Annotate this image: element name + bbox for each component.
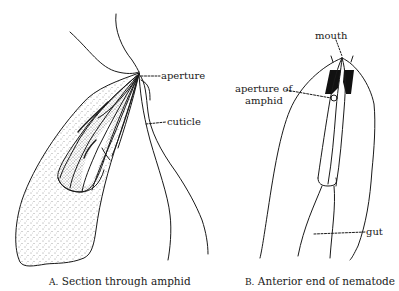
caption-b-letter: B.: [245, 277, 254, 287]
cuticle-outer-wall: [139, 74, 208, 254]
gut-leader: [314, 232, 365, 234]
mouth-leader: [336, 40, 342, 56]
gut-wall-left: [298, 186, 322, 256]
label-aperture-of-amphid-line1: aperture of: [235, 83, 292, 94]
caption-a-text: Section through amphid: [62, 275, 191, 287]
figure-a-section-through-amphid: [16, 14, 208, 266]
amphid-aperture-icon: [331, 95, 337, 101]
label-mouth: mouth: [315, 30, 347, 41]
label-cuticle: cuticle: [167, 116, 201, 127]
label-aperture-of-amphid-line2: amphid: [245, 95, 283, 106]
figure-b-anterior-end: [260, 40, 375, 260]
caption-a-letter: A.: [49, 277, 58, 287]
label-aperture: aperture: [161, 70, 205, 81]
caption-figure-a: A. Section through amphid: [49, 275, 191, 287]
outer-wall-right: [116, 14, 139, 72]
amphid-leader: [286, 90, 331, 98]
outer-wall-left: [70, 32, 139, 74]
diagram-canvas: [0, 0, 399, 291]
cuticle-inner-wall: [139, 74, 171, 260]
label-gut: gut: [366, 226, 383, 237]
caption-b-text: Anterior end of nematode: [258, 275, 395, 287]
gut-wall-right: [330, 186, 335, 258]
cuticle-leader: [146, 122, 166, 124]
caption-figure-b: B. Anterior end of nematode: [245, 275, 395, 287]
